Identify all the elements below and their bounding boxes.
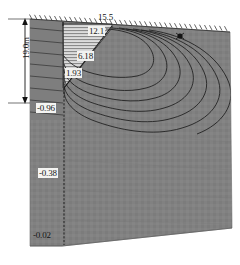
boundary-label-neg-0-38: -0.38 xyxy=(38,168,58,178)
contour-label-6-18: 6.18 xyxy=(77,51,94,61)
contour-label-12-1: 12.1 xyxy=(88,26,105,36)
boundary-label-neg-0-96: -0.96 xyxy=(36,103,56,113)
boundary-label-neg-0-02: -0.02 xyxy=(33,230,51,240)
contour-label-15-5: 15.5 xyxy=(98,12,113,22)
dimension-label-19m: 19.0m xyxy=(21,31,31,65)
contour-label-1-93: 1.93 xyxy=(65,68,82,78)
contour-plot-figure: 19.0m 15.5 12.1 6.18 1.93 -0.96 -0.38 -0… xyxy=(0,0,240,265)
contour-plot-canvas xyxy=(0,0,240,265)
